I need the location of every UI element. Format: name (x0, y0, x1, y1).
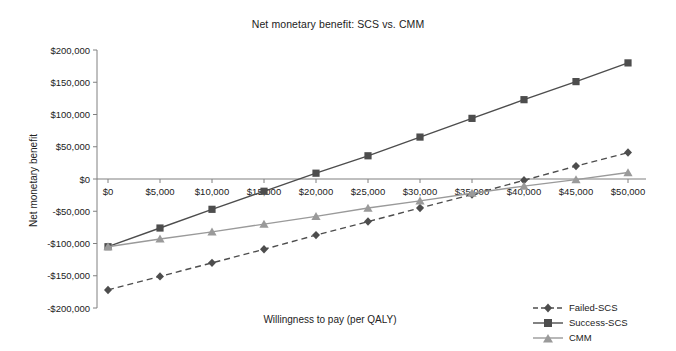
data-point-square (468, 115, 475, 122)
data-point-square (416, 133, 423, 140)
data-point-diamond (104, 286, 112, 294)
y-axis-tick-label: $50,000 (56, 141, 90, 152)
data-point-triangle (623, 168, 632, 176)
x-axis-tick-label: $5,000 (145, 186, 174, 197)
legend-label-success-scs: Success-SCS (569, 315, 628, 330)
chart-container: Net monetary benefit: SCS vs. CMM Net mo… (0, 0, 676, 351)
y-axis-tick-label: -$100,000 (47, 238, 90, 249)
plot-area: $200,000$150,000$100,000$50,000$0-$50,00… (0, 0, 676, 351)
data-point-diamond (416, 204, 424, 212)
y-axis-tick-label: $100,000 (50, 109, 90, 120)
data-point-square (364, 152, 371, 159)
data-point-diamond (208, 259, 216, 267)
data-point-square (156, 224, 163, 231)
data-point-square (260, 188, 267, 195)
x-axis-tick-label: $25,000 (351, 186, 385, 197)
legend-key-solid-square-icon (533, 317, 563, 329)
data-point-diamond (624, 148, 632, 156)
x-axis-tick-label: $0 (103, 186, 114, 197)
chart-legend: Failed-SCS Success-SCS CMM (533, 300, 628, 345)
data-point-diamond (156, 272, 164, 280)
y-axis-tick-label: $0 (79, 174, 90, 185)
legend-key-dashed-diamond-icon (533, 302, 563, 314)
data-point-diamond (312, 231, 320, 239)
x-axis-tick-label: $10,000 (195, 186, 229, 197)
data-point-square (520, 96, 527, 103)
x-axis-tick-label: $45,000 (559, 186, 593, 197)
y-axis-tick-label: -$150,000 (47, 270, 90, 281)
y-axis-tick-label: $200,000 (50, 45, 90, 56)
data-point-diamond (260, 245, 268, 253)
legend-label-failed-scs: Failed-SCS (569, 300, 618, 315)
data-point-square (624, 59, 631, 66)
data-point-diamond (364, 217, 372, 225)
legend-key-solid-triangle-icon (533, 332, 563, 344)
data-point-square (208, 206, 215, 213)
legend-item-cmm[interactable]: CMM (533, 330, 628, 345)
y-axis-tick-label: -$200,000 (47, 303, 90, 314)
data-point-diamond (572, 162, 580, 170)
data-point-square (572, 78, 579, 85)
x-axis-tick-label: $20,000 (299, 186, 333, 197)
data-point-square (312, 170, 319, 177)
y-axis-tick-label: -$50,000 (52, 206, 90, 217)
legend-item-success-scs[interactable]: Success-SCS (533, 315, 628, 330)
legend-item-failed-scs[interactable]: Failed-SCS (533, 300, 628, 315)
x-axis-tick-label: $30,000 (403, 186, 437, 197)
y-axis-tick-label: $150,000 (50, 77, 90, 88)
x-axis-tick-label: $50,000 (611, 186, 645, 197)
legend-label-cmm: CMM (569, 330, 592, 345)
